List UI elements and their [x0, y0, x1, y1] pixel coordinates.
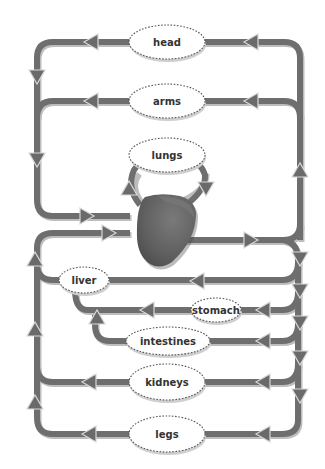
arrow-left-icon [84, 34, 98, 50]
arrow-down-icon [292, 252, 308, 266]
arrow-left-icon [82, 426, 96, 442]
organ-label-lungs: lungs [152, 150, 183, 161]
arrow-down-icon [292, 351, 308, 365]
organ-label-arms: arms [153, 96, 181, 107]
organ-lungs[interactable]: lungs [129, 138, 206, 175]
heart-icon [137, 194, 198, 269]
arrow-down-icon [292, 284, 308, 298]
organ-liver[interactable]: liver [59, 267, 110, 296]
organ-head[interactable]: head [129, 25, 206, 62]
arrow-left-icon [256, 333, 270, 349]
arrow-left-icon [256, 426, 270, 442]
arrow-down-icon [29, 153, 45, 167]
organ-label-liver: liver [71, 275, 96, 286]
arrow-down-icon [292, 316, 308, 330]
arrow-right-icon [244, 232, 258, 248]
organ-legs[interactable]: legs [129, 416, 206, 455]
organ-label-kidneys: kidneys [145, 377, 189, 388]
arrow-down-icon [292, 389, 308, 403]
arrow-left-icon [140, 302, 154, 318]
organ-label-intestines: intestines [140, 336, 196, 347]
organ-label-stomach: stomach [192, 305, 240, 316]
circulatory-diagram: head arms lungs liver stomach intestines [0, 0, 325, 469]
arrow-left-icon [256, 302, 270, 318]
arrow-right-icon [80, 208, 94, 224]
arrow-down-icon [29, 70, 45, 84]
organ-stomach[interactable]: stomach [191, 298, 242, 325]
organ-arms[interactable]: arms [129, 84, 206, 121]
organ-kidneys[interactable]: kidneys [129, 364, 206, 403]
arrow-left-icon [256, 374, 270, 390]
arrow-right-icon [102, 225, 116, 241]
organ-label-legs: legs [155, 429, 178, 440]
organ-label-head: head [153, 37, 181, 48]
arrow-left-icon [244, 34, 258, 50]
arrow-left-icon [190, 273, 204, 289]
arrow-up-icon [292, 163, 308, 177]
arrow-left-icon [82, 374, 96, 390]
organ-intestines[interactable]: intestines [126, 327, 211, 358]
arrow-left-icon [84, 93, 98, 109]
arrow-left-icon [244, 93, 258, 109]
